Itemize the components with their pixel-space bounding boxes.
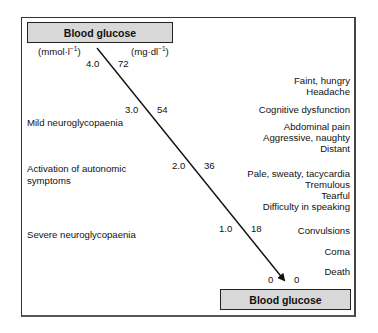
symptom-pale-sweaty: Pale, sweaty, tacycardia bbox=[247, 168, 350, 180]
scale-mgdl-54: 54 bbox=[157, 104, 168, 115]
symptom-coma: Coma bbox=[324, 246, 350, 258]
scale-mmol-0: 0 bbox=[268, 274, 273, 285]
symptom-tremulous: Tremulous bbox=[305, 179, 350, 191]
scale-mgdl-72: 72 bbox=[118, 58, 129, 69]
symptom-headache: Headache bbox=[306, 86, 350, 98]
symptom-abdominal-pain: Abdominal pain bbox=[284, 121, 350, 133]
stage-autonomic-line1: Activation of autonomic bbox=[27, 163, 126, 175]
scale-mgdl-0: 0 bbox=[294, 274, 299, 285]
symptom-faint-hungry: Faint, hungry bbox=[294, 75, 350, 87]
stage-autonomic-line2: symptoms bbox=[27, 175, 71, 187]
scale-mgdl-36: 36 bbox=[204, 160, 215, 171]
scale-mmol-3: 3.0 bbox=[125, 104, 138, 115]
scale-mmol-4: 4.0 bbox=[86, 58, 99, 69]
symptom-death: Death bbox=[324, 266, 350, 278]
symptom-difficulty-speaking: Difficulty in speaking bbox=[263, 201, 350, 213]
scale-mmol-1: 1.0 bbox=[219, 223, 232, 234]
scale-mmol-2: 2.0 bbox=[172, 160, 185, 171]
blood-glucose-label-bottom: Blood glucose bbox=[249, 294, 321, 306]
symptom-tearful: Tearful bbox=[321, 190, 350, 202]
stage-severe-neuroglycopaenia: Severe neuroglycopaenia bbox=[27, 229, 136, 241]
symptom-distant: Distant bbox=[320, 143, 350, 155]
scale-mgdl-18: 18 bbox=[251, 223, 262, 234]
stage-mild-neuroglycopaenia: Mild neuroglycopaenia bbox=[27, 117, 123, 129]
symptom-cognitive-dysfunction: Cognitive dysfunction bbox=[259, 104, 350, 116]
symptom-aggressive-naughty: Aggressive, naughty bbox=[263, 132, 350, 144]
symptom-convulsions: Convulsions bbox=[298, 225, 350, 237]
blood-glucose-header-bottom: Blood glucose bbox=[220, 289, 351, 310]
